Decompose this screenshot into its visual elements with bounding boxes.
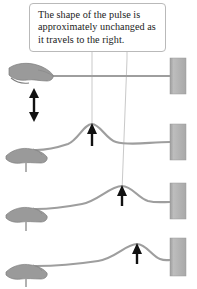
wall-anchor-panel-3 [170, 183, 186, 219]
rope-panel-4 [36, 244, 170, 266]
callout-text: The shape of the pulse is approximately … [38, 9, 159, 46]
hand-panel-3 [6, 207, 47, 231]
wall-anchor-panel-1 [170, 58, 186, 94]
peak-arrow-panel-3 [117, 185, 127, 206]
wave-pulse-figure: The shape of the pulse is approximately … [0, 0, 197, 289]
peak-arrow-panel-4 [132, 243, 142, 264]
panel-3 [6, 183, 186, 231]
hand-panel-1 [9, 63, 53, 83]
hand-motion-double-arrow [29, 88, 39, 122]
callout-box: The shape of the pulse is approximately … [29, 3, 166, 52]
panel-1 [9, 58, 186, 122]
panel-4 [6, 238, 186, 287]
panel-2 [6, 123, 186, 172]
wall-anchor-panel-4 [170, 238, 186, 276]
rope-panel-3 [36, 186, 170, 209]
wall-anchor-panel-2 [170, 124, 186, 160]
hand-panel-4 [6, 264, 47, 287]
rope-panel-2 [36, 124, 170, 150]
hand-panel-2 [6, 148, 47, 172]
